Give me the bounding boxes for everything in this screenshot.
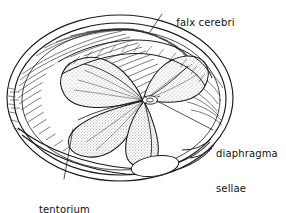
tentorium-cerebelli	[61, 56, 209, 168]
falx-cerebri-leader	[150, 14, 162, 32]
tentorium-leaf-upper-right	[143, 56, 208, 102]
tentorium-leaf-upper-left	[61, 57, 143, 107]
label-diaphragma-sellae-line1: diaphragma	[216, 148, 278, 160]
label-falx-cerebri-text: falx cerebri	[176, 17, 234, 28]
label-tentorium-cerebelli-line1: tentorium	[39, 204, 90, 213]
label-falx-cerebri: falx cerebri	[163, 5, 235, 40]
label-diaphragma-sellae: diaphragma sellae	[216, 125, 278, 213]
diaphragma-sellae-leader	[157, 101, 213, 130]
diaphragma-sellae	[143, 96, 161, 104]
anatomy-figure: falx cerebri diaphragma sellae tentorium…	[0, 0, 286, 213]
label-diaphragma-sellae-line2: sellae	[216, 183, 278, 195]
label-tentorium-cerebelli: tentorium cerebelli	[39, 181, 90, 213]
